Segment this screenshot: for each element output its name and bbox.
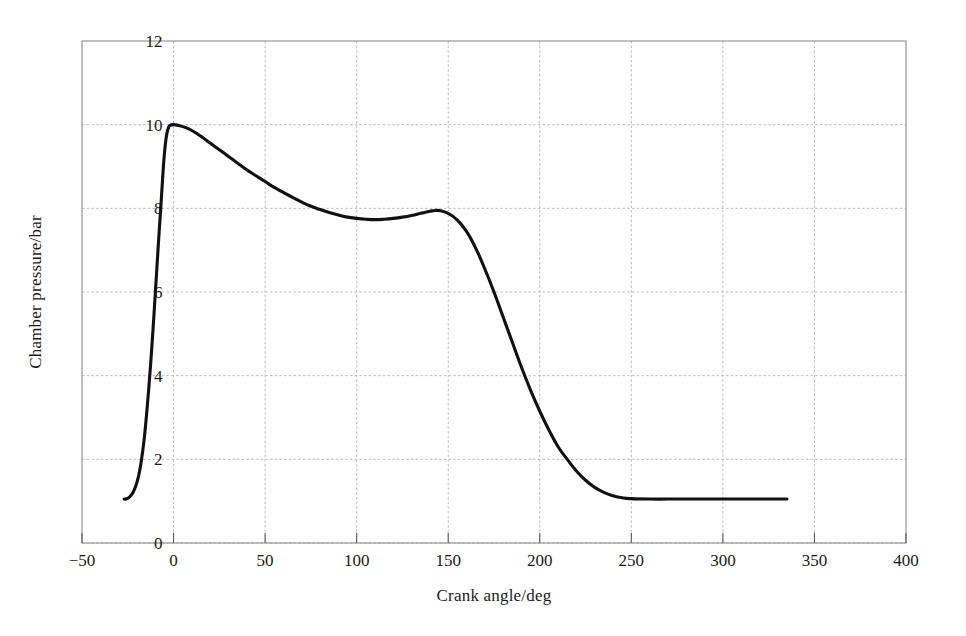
y-axis-title: Chamber pressure/bar bbox=[26, 215, 45, 369]
x-tick-label-100: 100 bbox=[344, 551, 370, 570]
x-tick-label-400: 400 bbox=[893, 551, 919, 570]
x-tick-label-50: 50 bbox=[257, 551, 274, 570]
x-tick-label--50: −50 bbox=[69, 551, 96, 570]
chart-figure: −50050100150200250300350400 024681012 Cr… bbox=[0, 0, 966, 636]
y-tick-label-10: 10 bbox=[146, 116, 163, 135]
y-tick-label-2: 2 bbox=[154, 450, 163, 469]
x-tick-label-200: 200 bbox=[527, 551, 553, 570]
x-tick-label-250: 250 bbox=[619, 551, 645, 570]
y-tick-label-12: 12 bbox=[146, 32, 163, 51]
x-tick-label-150: 150 bbox=[435, 551, 461, 570]
pressure-vs-crank-angle-chart: −50050100150200250300350400 024681012 Cr… bbox=[0, 0, 966, 636]
y-tick-label-4: 4 bbox=[154, 367, 163, 386]
y-tick-label-0: 0 bbox=[154, 534, 163, 553]
x-tick-label-350: 350 bbox=[802, 551, 828, 570]
x-axis-title: Crank angle/deg bbox=[437, 586, 552, 605]
x-tick-label-300: 300 bbox=[710, 551, 736, 570]
chart-background bbox=[0, 0, 966, 636]
x-tick-label-0: 0 bbox=[169, 551, 178, 570]
